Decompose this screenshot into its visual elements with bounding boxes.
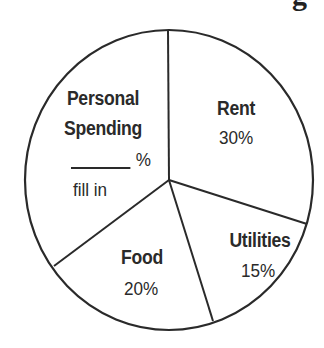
slice-value-personal: % (71, 150, 151, 169)
pie-chart (0, 0, 324, 348)
slice-label-personal-line2: Spending (64, 118, 142, 138)
slice-label-personal-line1: Personal (67, 88, 139, 108)
slice-value-food: 20% (124, 279, 158, 298)
divider-rent-personal (168, 30, 169, 180)
slice-value-rent: 30% (219, 128, 253, 147)
fill-in-note: fill in (73, 180, 107, 199)
slice-label-food: Food (121, 247, 163, 267)
slice-value-utilities: 15% (241, 261, 275, 280)
percent-sign: % (136, 149, 151, 170)
slice-label-rent: Rent (217, 98, 255, 118)
slice-label-utilities: Utilities (229, 230, 290, 250)
fill-in-blank[interactable] (71, 166, 130, 169)
